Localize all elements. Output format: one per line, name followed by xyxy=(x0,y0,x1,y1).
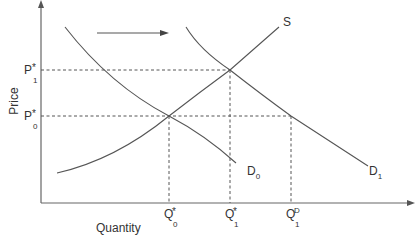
d0-subscript: 0 xyxy=(256,172,260,181)
x-axis-arrowhead-icon xyxy=(407,200,415,206)
quantity-label-q0: Q * 0 xyxy=(164,208,180,232)
p0-sub: 0 xyxy=(33,123,37,131)
demand-curve-d1 xyxy=(186,27,368,166)
y-axis-label: Price xyxy=(7,81,21,121)
supply-label: S xyxy=(283,16,291,28)
price-label-p1: P * 1 xyxy=(24,64,40,88)
demand-d1-label: D1 xyxy=(369,162,382,178)
supply-demand-diagram xyxy=(0,0,418,238)
d1-letter: D xyxy=(369,164,378,178)
quantity-label-q1d: Q D 1 xyxy=(286,208,302,232)
q0-sub: 0 xyxy=(173,221,177,229)
demand-curve-d0 xyxy=(65,27,236,163)
axes xyxy=(41,4,410,203)
x-axis-label: Quantity xyxy=(96,221,141,235)
p1-sup: * xyxy=(32,63,36,73)
p0-sup: * xyxy=(32,109,36,119)
q0-sup: * xyxy=(172,207,176,217)
shift-arrow-right-icon xyxy=(160,30,169,36)
p1-letter: P xyxy=(24,64,32,76)
price-label-p0: P * 0 xyxy=(24,110,40,134)
p0-letter: P xyxy=(24,110,32,122)
guide-lines xyxy=(41,70,291,203)
q1d-sub: 1 xyxy=(295,221,299,229)
d1-subscript: 1 xyxy=(378,172,382,181)
demand-d0-label: D0 xyxy=(247,162,260,178)
y-axis-arrowhead-icon xyxy=(38,0,44,8)
q1d-sup: D xyxy=(294,207,300,215)
q1-sup: * xyxy=(233,207,237,217)
supply-curve xyxy=(57,27,279,173)
d0-letter: D xyxy=(247,164,256,178)
p1-sub: 1 xyxy=(33,77,37,85)
quantity-label-q1: Q * 1 xyxy=(225,208,241,232)
q1-sub: 1 xyxy=(234,221,238,229)
